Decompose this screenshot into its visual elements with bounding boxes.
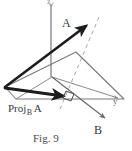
axis-z-label: z (47, 0, 51, 6)
figure-caption: Fig. 9 (33, 133, 59, 144)
axis-x (16, 77, 52, 99)
vector-a-label: A (62, 17, 71, 29)
figure-vector-projection: z A y B ProjBA Fig. 9 (0, 0, 132, 151)
projection-label: ProjBA (8, 103, 42, 117)
axis-y-label: y (113, 97, 118, 106)
vector-b-label: B (94, 124, 102, 136)
xy-plane-outline (5, 52, 124, 99)
vector-a-arrow (5, 26, 86, 87)
projection-label-subscript: B (26, 108, 32, 117)
projection-label-prefix: Proj (8, 102, 26, 114)
projection-arrow (5, 88, 63, 96)
vector-b-arrow (52, 77, 105, 118)
projection-label-main: A (33, 102, 42, 114)
